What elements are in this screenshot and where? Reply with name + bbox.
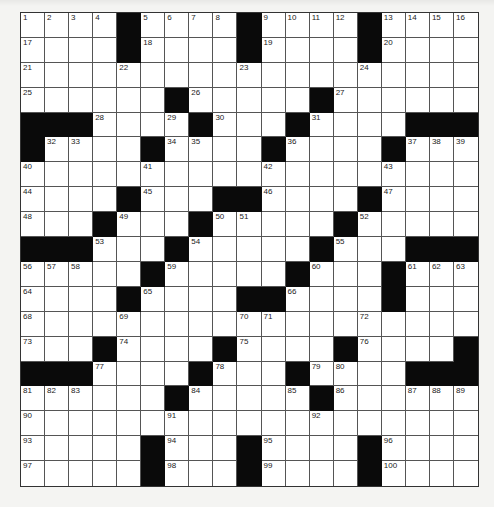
grid-cell[interactable] xyxy=(189,38,213,63)
grid-cell[interactable] xyxy=(117,137,141,162)
grid-cell[interactable] xyxy=(310,162,334,187)
grid-cell[interactable] xyxy=(45,162,69,187)
grid-cell[interactable] xyxy=(237,411,261,436)
grid-cell[interactable] xyxy=(358,411,382,436)
grid-cell[interactable] xyxy=(334,461,358,486)
grid-cell[interactable] xyxy=(430,287,454,312)
grid-cell[interactable] xyxy=(334,262,358,287)
grid-cell[interactable]: 20 xyxy=(382,38,406,63)
grid-cell[interactable] xyxy=(45,461,69,486)
grid-cell[interactable] xyxy=(189,262,213,287)
grid-cell[interactable]: 18 xyxy=(141,38,165,63)
grid-cell[interactable] xyxy=(45,88,69,113)
grid-cell[interactable]: 31 xyxy=(310,113,334,138)
grid-cell[interactable] xyxy=(213,63,237,88)
grid-cell[interactable] xyxy=(310,38,334,63)
grid-cell[interactable]: 30 xyxy=(213,113,237,138)
grid-cell[interactable] xyxy=(213,38,237,63)
grid-cell[interactable] xyxy=(141,386,165,411)
grid-cell[interactable]: 71 xyxy=(262,312,286,337)
grid-cell[interactable]: 15 xyxy=(430,13,454,38)
grid-cell[interactable]: 66 xyxy=(286,287,310,312)
grid-cell[interactable] xyxy=(165,63,189,88)
grid-cell[interactable] xyxy=(117,411,141,436)
grid-cell[interactable] xyxy=(310,187,334,212)
grid-cell[interactable] xyxy=(334,436,358,461)
grid-cell[interactable] xyxy=(237,362,261,387)
grid-cell[interactable]: 41 xyxy=(141,162,165,187)
grid-cell[interactable] xyxy=(69,162,93,187)
grid-cell[interactable]: 74 xyxy=(117,337,141,362)
grid-cell[interactable] xyxy=(430,212,454,237)
grid-cell[interactable] xyxy=(334,411,358,436)
grid-cell[interactable]: 50 xyxy=(213,212,237,237)
grid-cell[interactable]: 57 xyxy=(45,262,69,287)
grid-cell[interactable] xyxy=(45,63,69,88)
grid-cell[interactable] xyxy=(358,162,382,187)
grid-cell[interactable] xyxy=(141,337,165,362)
grid-cell[interactable] xyxy=(382,312,406,337)
grid-cell[interactable]: 29 xyxy=(165,113,189,138)
grid-cell[interactable]: 45 xyxy=(141,187,165,212)
grid-cell[interactable]: 27 xyxy=(334,88,358,113)
grid-cell[interactable] xyxy=(45,187,69,212)
grid-cell[interactable]: 96 xyxy=(382,436,406,461)
grid-cell[interactable] xyxy=(406,312,430,337)
grid-cell[interactable] xyxy=(189,411,213,436)
grid-cell[interactable] xyxy=(454,312,478,337)
grid-cell[interactable]: 34 xyxy=(165,137,189,162)
grid-cell[interactable] xyxy=(93,88,117,113)
grid-cell[interactable]: 40 xyxy=(21,162,45,187)
grid-cell[interactable]: 12 xyxy=(334,13,358,38)
grid-cell[interactable] xyxy=(286,436,310,461)
grid-cell[interactable] xyxy=(69,461,93,486)
grid-cell[interactable]: 91 xyxy=(165,411,189,436)
grid-cell[interactable]: 76 xyxy=(358,337,382,362)
grid-cell[interactable] xyxy=(358,113,382,138)
grid-cell[interactable]: 25 xyxy=(21,88,45,113)
grid-cell[interactable] xyxy=(406,162,430,187)
grid-cell[interactable] xyxy=(334,187,358,212)
grid-cell[interactable]: 95 xyxy=(262,436,286,461)
grid-cell[interactable] xyxy=(454,63,478,88)
grid-cell[interactable] xyxy=(310,337,334,362)
grid-cell[interactable]: 6 xyxy=(165,13,189,38)
grid-cell[interactable] xyxy=(430,63,454,88)
grid-cell[interactable]: 100 xyxy=(382,461,406,486)
grid-cell[interactable] xyxy=(334,287,358,312)
grid-cell[interactable] xyxy=(165,212,189,237)
grid-cell[interactable] xyxy=(237,162,261,187)
grid-cell[interactable] xyxy=(93,63,117,88)
grid-cell[interactable] xyxy=(69,287,93,312)
grid-cell[interactable] xyxy=(310,137,334,162)
grid-cell[interactable] xyxy=(117,461,141,486)
grid-cell[interactable] xyxy=(262,88,286,113)
grid-cell[interactable] xyxy=(430,411,454,436)
grid-cell[interactable] xyxy=(117,362,141,387)
grid-cell[interactable]: 36 xyxy=(286,137,310,162)
grid-cell[interactable] xyxy=(165,287,189,312)
grid-cell[interactable] xyxy=(117,436,141,461)
grid-cell[interactable]: 9 xyxy=(262,13,286,38)
grid-cell[interactable]: 22 xyxy=(117,63,141,88)
grid-cell[interactable] xyxy=(69,38,93,63)
grid-cell[interactable] xyxy=(382,63,406,88)
grid-cell[interactable] xyxy=(454,461,478,486)
grid-cell[interactable]: 10 xyxy=(286,13,310,38)
grid-cell[interactable] xyxy=(117,113,141,138)
grid-cell[interactable] xyxy=(262,411,286,436)
grid-cell[interactable]: 98 xyxy=(165,461,189,486)
grid-cell[interactable]: 48 xyxy=(21,212,45,237)
grid-cell[interactable]: 5 xyxy=(141,13,165,38)
grid-cell[interactable]: 13 xyxy=(382,13,406,38)
grid-cell[interactable] xyxy=(237,262,261,287)
grid-cell[interactable]: 4 xyxy=(93,13,117,38)
grid-cell[interactable] xyxy=(69,312,93,337)
grid-cell[interactable] xyxy=(334,137,358,162)
grid-cell[interactable] xyxy=(93,137,117,162)
grid-cell[interactable] xyxy=(117,162,141,187)
grid-cell[interactable]: 82 xyxy=(45,386,69,411)
grid-cell[interactable] xyxy=(286,411,310,436)
grid-cell[interactable]: 63 xyxy=(454,262,478,287)
grid-cell[interactable] xyxy=(406,461,430,486)
